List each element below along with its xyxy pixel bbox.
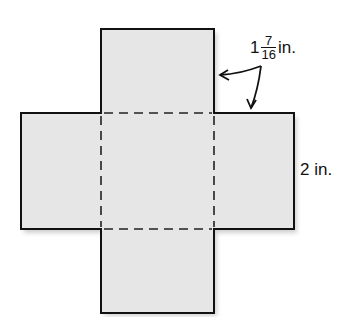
dimension-arrows <box>220 66 261 108</box>
side-dimension-value: 2 <box>300 160 309 179</box>
fraction-numerator: 7 <box>261 34 275 48</box>
side-dimension-label: 2 in. <box>300 160 332 180</box>
dimension-fraction: 716 <box>261 34 275 61</box>
net-fill <box>21 29 294 313</box>
dimension-whole: 1 <box>250 38 259 57</box>
top-dimension-label: 1716in. <box>250 34 296 61</box>
dimension-unit: in. <box>278 38 296 57</box>
fraction-denominator: 16 <box>261 48 275 61</box>
side-dimension-unit: in. <box>314 160 332 179</box>
